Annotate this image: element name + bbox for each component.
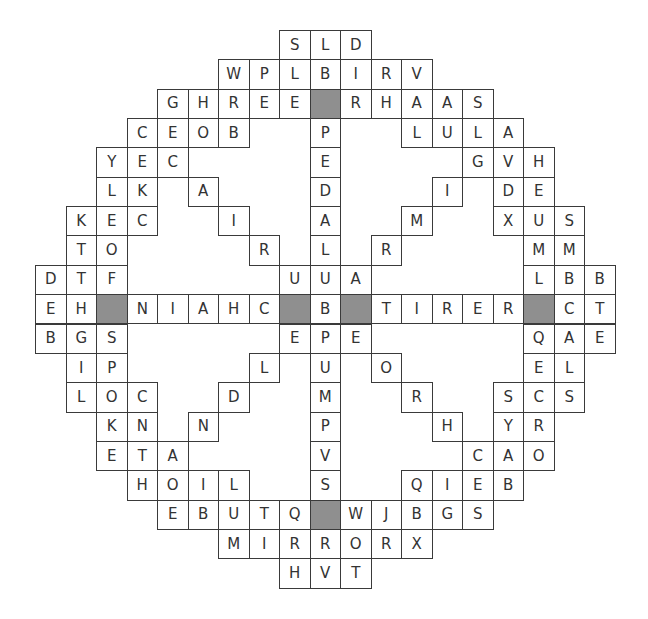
letter-cell[interactable]: S [279, 30, 311, 60]
letter-cell[interactable]: E [523, 353, 555, 383]
letter-cell[interactable]: P [96, 353, 128, 383]
letter-cell[interactable]: G [157, 89, 189, 119]
letter-cell[interactable]: D [35, 265, 67, 295]
letter-cell[interactable]: A [310, 206, 342, 236]
letter-cell[interactable]: S [310, 470, 342, 500]
letter-cell[interactable]: C [127, 118, 159, 148]
letter-cell[interactable]: I [218, 206, 250, 236]
letter-cell[interactable]: O [523, 441, 555, 471]
letter-cell[interactable]: E [96, 206, 128, 236]
letter-cell[interactable]: A [554, 324, 586, 354]
letter-cell[interactable]: T [249, 500, 281, 530]
letter-cell[interactable]: G [462, 147, 494, 177]
letter-cell[interactable]: I [157, 294, 189, 324]
letter-cell[interactable]: R [279, 529, 311, 559]
letter-cell[interactable]: C [127, 206, 159, 236]
letter-cell[interactable]: V [493, 147, 525, 177]
letter-cell[interactable]: L [554, 353, 586, 383]
letter-cell[interactable]: N [188, 412, 220, 442]
letter-cell[interactable]: D [493, 177, 525, 207]
letter-cell[interactable]: R [218, 89, 250, 119]
letter-cell[interactable]: E [96, 441, 128, 471]
letter-cell[interactable]: T [340, 558, 372, 588]
letter-cell[interactable]: O [188, 118, 220, 148]
letter-cell[interactable]: E [523, 177, 555, 207]
letter-cell[interactable]: N [127, 412, 159, 442]
letter-cell[interactable]: L [462, 118, 494, 148]
letter-cell[interactable]: S [462, 89, 494, 119]
letter-cell[interactable]: Y [96, 147, 128, 177]
letter-cell[interactable]: A [157, 441, 189, 471]
letter-cell[interactable]: R [310, 529, 342, 559]
letter-cell[interactable]: K [96, 412, 128, 442]
letter-cell[interactable]: Y [493, 412, 525, 442]
letter-cell[interactable]: N [127, 294, 159, 324]
letter-cell[interactable]: E [310, 147, 342, 177]
letter-cell[interactable]: X [493, 206, 525, 236]
letter-cell[interactable]: L [279, 59, 311, 89]
letter-cell[interactable]: A [188, 177, 220, 207]
letter-cell[interactable]: B [218, 118, 250, 148]
letter-cell[interactable]: G [66, 324, 98, 354]
letter-cell[interactable]: T [127, 441, 159, 471]
letter-cell[interactable]: P [310, 412, 342, 442]
letter-cell[interactable]: X [401, 529, 433, 559]
letter-cell[interactable]: O [371, 353, 403, 383]
letter-cell[interactable]: H [279, 558, 311, 588]
letter-cell[interactable]: H [218, 294, 250, 324]
letter-cell[interactable]: C [249, 294, 281, 324]
letter-cell[interactable]: T [371, 294, 403, 324]
letter-cell[interactable]: E [584, 324, 616, 354]
letter-cell[interactable]: W [340, 500, 372, 530]
letter-cell[interactable]: I [188, 470, 220, 500]
letter-cell[interactable]: E [279, 89, 311, 119]
letter-cell[interactable]: U [310, 353, 342, 383]
letter-cell[interactable]: V [310, 558, 342, 588]
letter-cell[interactable]: O [96, 235, 128, 265]
letter-cell[interactable]: I [249, 529, 281, 559]
letter-cell[interactable]: T [584, 294, 616, 324]
letter-cell[interactable]: I [66, 353, 98, 383]
letter-cell[interactable]: L [401, 118, 433, 148]
letter-cell[interactable]: I [432, 470, 464, 500]
letter-cell[interactable]: L [523, 265, 555, 295]
letter-cell[interactable]: A [493, 441, 525, 471]
letter-cell[interactable]: U [218, 500, 250, 530]
letter-cell[interactable]: O [157, 470, 189, 500]
letter-cell[interactable]: K [127, 177, 159, 207]
letter-cell[interactable]: H [66, 294, 98, 324]
letter-cell[interactable]: D [218, 382, 250, 412]
letter-cell[interactable]: S [96, 324, 128, 354]
letter-cell[interactable]: R [523, 412, 555, 442]
letter-cell[interactable]: E [462, 470, 494, 500]
letter-cell[interactable]: H [523, 147, 555, 177]
letter-cell[interactable]: B [310, 294, 342, 324]
letter-cell[interactable]: L [218, 470, 250, 500]
letter-cell[interactable]: C [554, 294, 586, 324]
letter-cell[interactable]: B [35, 324, 67, 354]
letter-cell[interactable]: A [340, 265, 372, 295]
letter-cell[interactable]: B [401, 500, 433, 530]
letter-cell[interactable]: B [310, 59, 342, 89]
letter-cell[interactable]: P [310, 324, 342, 354]
letter-cell[interactable]: H [188, 89, 220, 119]
letter-cell[interactable]: B [188, 500, 220, 530]
letter-cell[interactable]: D [310, 177, 342, 207]
letter-cell[interactable]: L [66, 382, 98, 412]
letter-cell[interactable]: P [310, 118, 342, 148]
letter-cell[interactable]: R [493, 294, 525, 324]
letter-cell[interactable]: U [279, 265, 311, 295]
letter-cell[interactable]: H [371, 89, 403, 119]
letter-cell[interactable]: L [310, 30, 342, 60]
letter-cell[interactable]: E [157, 500, 189, 530]
letter-cell[interactable]: E [279, 324, 311, 354]
letter-cell[interactable]: E [157, 118, 189, 148]
letter-cell[interactable]: S [554, 382, 586, 412]
letter-cell[interactable]: O [340, 529, 372, 559]
letter-cell[interactable]: Q [523, 324, 555, 354]
letter-cell[interactable]: T [66, 265, 98, 295]
letter-cell[interactable]: U [523, 206, 555, 236]
letter-cell[interactable]: D [340, 30, 372, 60]
letter-cell[interactable]: O [96, 382, 128, 412]
letter-cell[interactable]: J [371, 500, 403, 530]
